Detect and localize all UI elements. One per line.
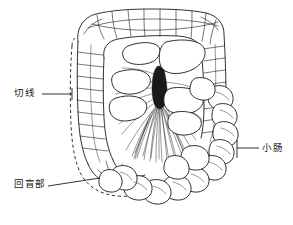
small-bowel-left-loops xyxy=(99,170,122,193)
label-small-intestine: 小肠 xyxy=(262,142,283,153)
label-ileocecal-region: 回盲部 xyxy=(14,178,46,189)
label-cut-line: 切线 xyxy=(14,87,35,98)
anatomy-figure: .ink { fill:none; stroke:#1a1a1a; stroke… xyxy=(0,0,293,225)
anatomy-illustration: .ink { fill:none; stroke:#1a1a1a; stroke… xyxy=(0,0,293,225)
